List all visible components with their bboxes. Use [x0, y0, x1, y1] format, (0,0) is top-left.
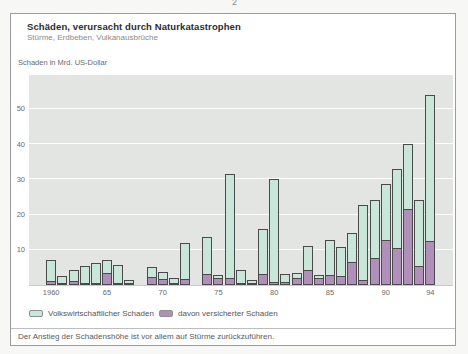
chart-subtitle: Stürme, Erdbeben, Vulkanausbrüche: [27, 33, 158, 42]
bar-1992: [403, 144, 413, 285]
x-tick-65: 65: [95, 288, 119, 297]
bar-insured-1966: [113, 283, 123, 285]
bar-1961: [57, 276, 67, 285]
page-number: 2: [232, 0, 237, 7]
bar-insured-1987: [347, 262, 357, 285]
legend-swatch-economic: [29, 310, 43, 317]
bar-insured-1970: [158, 279, 168, 285]
bar-insured-1979: [258, 274, 268, 285]
gridline-40: [29, 143, 453, 144]
bar-insured-1977: [236, 283, 246, 285]
bar-insured-1993: [414, 266, 424, 285]
y-tick-10: 10: [11, 245, 25, 254]
bar-1975: [213, 275, 223, 285]
bar-1988: [358, 205, 368, 285]
bar-insured-1981: [280, 282, 290, 285]
bar-1986: [336, 247, 346, 285]
bar-insured-1990: [381, 240, 391, 285]
bar-1972: [180, 243, 190, 285]
bar-1983: [303, 246, 313, 285]
bar-insured-1985: [325, 275, 335, 285]
bar-1979: [258, 229, 268, 285]
x-axis-line: [29, 285, 453, 286]
bar-1974: [202, 237, 212, 285]
bar-insured-1980: [269, 282, 279, 285]
footer-divider: [11, 328, 455, 329]
bar-insured-1960: [46, 281, 56, 285]
y-axis-title: Schaden in Mrd. US-Dollar: [18, 58, 107, 67]
bar-insured-1992: [403, 209, 413, 285]
bar-1987: [347, 233, 357, 285]
bar-insured-1962: [69, 281, 79, 285]
legend-label-economic: Volkswirtschaftlicher Schaden: [48, 309, 154, 318]
legend-swatch-insured: [159, 310, 173, 317]
bar-1967: [124, 280, 134, 285]
bar-1969: [147, 267, 157, 285]
bar-insured-1964: [91, 283, 101, 285]
bar-insured-1972: [180, 279, 190, 285]
y-tick-20: 20: [11, 210, 25, 219]
bar-1977: [236, 270, 246, 285]
bar-1978: [247, 280, 257, 285]
bar-1960: [46, 260, 56, 285]
bar-insured-1963: [80, 283, 90, 285]
gridline-30: [29, 178, 453, 179]
bar-1993: [414, 200, 424, 285]
bar-1980: [269, 179, 279, 285]
legend: Volkswirtschaftlicher Schaden davon vers…: [11, 307, 455, 323]
bar-1964: [91, 263, 101, 285]
bar-1962: [69, 270, 79, 285]
bar-1985: [325, 240, 335, 285]
bar-1976: [225, 174, 235, 285]
x-tick-80: 80: [262, 288, 286, 297]
x-tick-90: 90: [374, 288, 398, 297]
bar-1989: [370, 200, 380, 285]
bar-1984: [314, 275, 324, 285]
x-tick-85: 85: [318, 288, 342, 297]
bar-insured-1984: [314, 278, 324, 285]
bar-1991: [392, 169, 402, 285]
bar-insured-1983: [303, 270, 313, 285]
chart-figure: Schäden, verursacht durch Naturkatastrop…: [10, 13, 456, 346]
bar-insured-1991: [392, 248, 402, 285]
bar-insured-1976: [225, 278, 235, 285]
bar-insured-1982: [292, 278, 302, 285]
bar-insured-1975: [213, 278, 223, 285]
bar-insured-1989: [370, 258, 380, 285]
y-tick-30: 30: [11, 175, 25, 184]
bar-1970: [158, 272, 168, 285]
x-tick-94: 94: [418, 288, 442, 297]
footnote: Der Anstieg der Schadenshöhe ist vor all…: [18, 332, 274, 341]
bar-1994: [425, 95, 435, 285]
bar-1963: [80, 266, 90, 285]
bar-1982: [292, 273, 302, 285]
y-tick-50: 50: [11, 104, 25, 113]
bar-1965: [102, 260, 112, 285]
bar-1971: [169, 278, 179, 285]
bar-insured-1994: [425, 241, 435, 285]
chart-title: Schäden, verursacht durch Naturkatastrop…: [27, 21, 241, 32]
bar-insured-1978: [247, 283, 257, 285]
legend-label-insured: davon versicherter Schaden: [178, 309, 278, 318]
plot-area: [29, 75, 453, 285]
x-tick-75: 75: [206, 288, 230, 297]
bar-1966: [113, 265, 123, 285]
bar-insured-1974: [202, 274, 212, 285]
x-tick-70: 70: [151, 288, 175, 297]
bar-insured-1971: [169, 283, 179, 285]
bar-insured-1986: [336, 276, 346, 286]
bar-insured-1965: [102, 273, 112, 285]
bar-1990: [381, 184, 391, 285]
bar-insured-1969: [147, 277, 157, 285]
bar-insured-1961: [57, 283, 67, 285]
bar-insured-1988: [358, 280, 368, 285]
x-tick-1960: 1960: [39, 288, 63, 297]
bar-insured-1967: [124, 283, 134, 285]
bar-1981: [280, 274, 290, 285]
y-tick-40: 40: [11, 140, 25, 149]
gridline-50: [29, 108, 453, 109]
